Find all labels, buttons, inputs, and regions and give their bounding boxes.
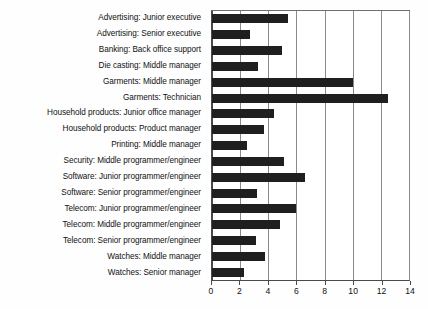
category-label-column: Advertising: Junior executiveAdvertising…	[0, 10, 205, 281]
bar-row	[212, 106, 409, 122]
category-label: Printing: Middle manager	[0, 138, 205, 154]
bar-row	[212, 248, 409, 264]
x-tick-mark	[382, 281, 383, 285]
category-label: Watches: Senior manager	[0, 265, 205, 281]
bar-row	[212, 233, 409, 249]
bar-row	[212, 43, 409, 59]
x-tick-label: 6	[294, 287, 299, 296]
category-label: Advertising: Junior executive	[0, 10, 205, 26]
bar-row	[212, 264, 409, 280]
x-tick-label: 14	[405, 287, 415, 296]
bar-row	[212, 169, 409, 185]
bar	[212, 268, 244, 277]
bar	[212, 252, 265, 261]
category-label: Advertising: Senior executive	[0, 26, 205, 42]
bar-row	[212, 74, 409, 90]
category-label: Telecom: Junior programmer/engineer	[0, 201, 205, 217]
x-tick-mark	[325, 281, 326, 285]
category-label: Household products: Junior office manage…	[0, 106, 205, 122]
bar-row	[212, 153, 409, 169]
bar-row	[212, 201, 409, 217]
category-label: Software: Senior programmer/engineer	[0, 185, 205, 201]
x-tick-mark	[296, 281, 297, 285]
category-label: Household products: Product manager	[0, 122, 205, 138]
bar	[212, 125, 264, 134]
x-tick-label: 8	[322, 287, 327, 296]
bar	[212, 46, 282, 55]
category-label: Watches: Middle manager	[0, 249, 205, 265]
bar-row	[212, 185, 409, 201]
bar	[212, 236, 256, 245]
bar	[212, 141, 247, 150]
bar	[212, 14, 288, 23]
bar-row	[212, 90, 409, 106]
x-tick-mark	[268, 281, 269, 285]
category-label: Security: Middle programmer/engineer	[0, 153, 205, 169]
category-label: Telecom: Senior programmer/engineer	[0, 233, 205, 249]
x-tick-mark	[410, 281, 411, 285]
bar-row	[212, 11, 409, 27]
gridline-14	[409, 11, 410, 280]
x-tick-label: 0	[209, 287, 214, 296]
bar	[212, 78, 353, 87]
x-tick-label: 10	[348, 287, 358, 296]
bar	[212, 189, 257, 198]
category-label: Die casting: Middle manager	[0, 58, 205, 74]
bar-series	[212, 11, 409, 280]
x-tick-label: 2	[237, 287, 242, 296]
bar	[212, 157, 284, 166]
x-tick-mark	[239, 281, 240, 285]
category-label: Garments: Middle manager	[0, 74, 205, 90]
x-tick-label: 12	[377, 287, 387, 296]
bar	[212, 109, 274, 118]
bar-chart: Advertising: Junior executiveAdvertising…	[0, 0, 428, 309]
bar-row	[212, 58, 409, 74]
x-tick-mark	[211, 281, 212, 285]
bar	[212, 173, 305, 182]
x-axis: 02468101214	[211, 281, 410, 309]
x-tick-mark	[353, 281, 354, 285]
plot-area	[211, 10, 410, 281]
bar	[212, 204, 296, 213]
category-label: Banking: Back office support	[0, 42, 205, 58]
bar-row	[212, 217, 409, 233]
category-label: Telecom: Middle programmer/engineer	[0, 217, 205, 233]
bar	[212, 94, 388, 103]
bar-row	[212, 27, 409, 43]
category-label: Garments: Technician	[0, 90, 205, 106]
bar	[212, 220, 280, 229]
bar-row	[212, 138, 409, 154]
bar-row	[212, 122, 409, 138]
x-tick-label: 4	[265, 287, 270, 296]
bar	[212, 30, 250, 39]
category-label: Software: Junior programmer/engineer	[0, 169, 205, 185]
bar	[212, 62, 258, 71]
